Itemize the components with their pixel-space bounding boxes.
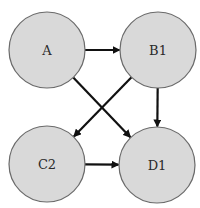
node-d1-label: D1: [148, 158, 167, 173]
node-c2-label: C2: [38, 157, 56, 172]
node-b1[interactable]: B1: [120, 12, 196, 88]
node-b1-label: B1: [149, 43, 167, 58]
node-c2[interactable]: C2: [9, 126, 85, 202]
node-a[interactable]: A: [9, 12, 85, 88]
node-d1[interactable]: D1: [119, 127, 195, 203]
node-a-label: A: [41, 43, 52, 58]
graph-diagram: A B1 C2 D1: [0, 0, 200, 208]
